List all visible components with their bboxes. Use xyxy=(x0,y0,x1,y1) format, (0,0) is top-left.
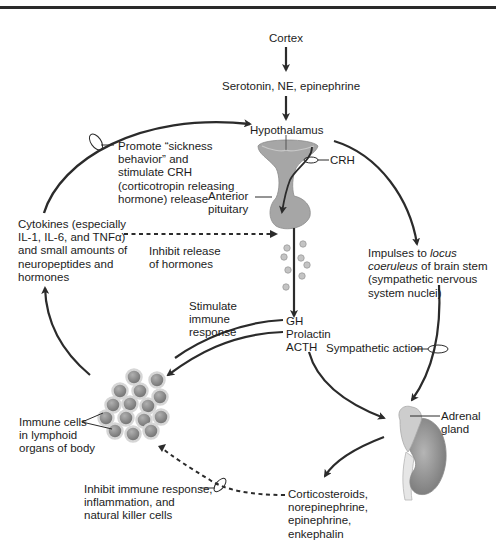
arrow-immune-to-cytokines xyxy=(45,288,90,375)
locus-coeruleus-label: Impulses to locus coeruleus of brain ste… xyxy=(368,247,488,300)
neurotransmitters-label: Serotonin, NE, epinephrine xyxy=(222,80,352,93)
arrow-adrenal-to-outputs xyxy=(325,437,384,476)
cytokines-label: Cytokines (especially IL-1, IL-6, and TN… xyxy=(18,218,127,284)
inhibit-immune-label: Inhibit immune response, inflammation, a… xyxy=(84,483,212,523)
immune-cells-label: Immune cells in lymphoid organs of body xyxy=(19,416,95,456)
arrow-inhibit-release xyxy=(124,230,278,238)
adrenal-outputs-label: Corticosteroids, norepinephrine, epineph… xyxy=(288,488,368,541)
hypothalamus-label: Hypothalamus xyxy=(250,124,322,137)
hypothalamus-pituitary-illustration xyxy=(255,135,329,229)
promote-sickness-label: Promote “sickness behavior” and stimulat… xyxy=(118,140,234,206)
pituitary-hormones-label: GH Prolactin ACTH xyxy=(286,315,331,355)
immune-cell-cluster xyxy=(99,370,169,442)
hormone-granules xyxy=(281,241,310,290)
adrenal-kidney-illustration xyxy=(399,406,446,500)
inhibit-release-label: Inhibit release of hormones xyxy=(149,245,221,271)
stimulate-immune-label: Stimulate immune response xyxy=(189,300,237,340)
arrow-acth-to-adrenal xyxy=(309,352,384,418)
crh-label: CRH xyxy=(330,154,355,167)
adrenal-gland-label: Adrenal gland xyxy=(441,410,481,436)
sympathetic-action-label: Sympathetic action xyxy=(326,342,423,355)
cortex-label: Cortex xyxy=(262,32,310,45)
